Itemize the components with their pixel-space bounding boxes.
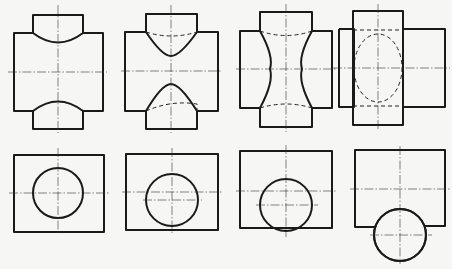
figure-5-circle-centered [9, 148, 109, 235]
technical-drawing [0, 0, 452, 269]
figure-3-hourglass-intersection [236, 4, 336, 132]
figure-8-circle-protruding [350, 146, 450, 264]
figure-6-circle-offset [122, 148, 222, 233]
figure-7-circle-tangent-bottom [236, 145, 336, 237]
figure-1-convex-intersection [8, 5, 107, 133]
figure-2-pointed-intersection [121, 5, 222, 133]
figure-4-elliptical-hidden-intersection [333, 4, 450, 130]
